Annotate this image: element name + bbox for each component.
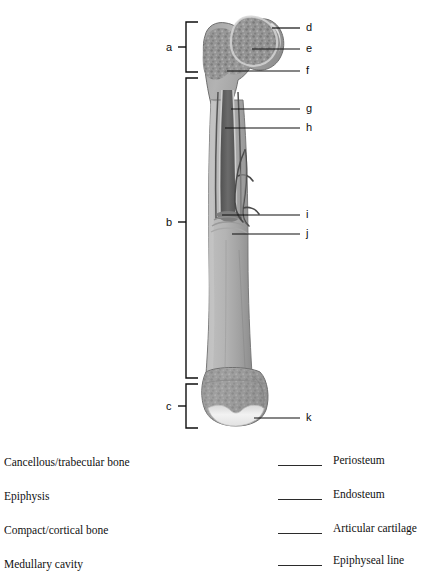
region-brackets [178, 22, 198, 428]
wordbank-term-epiphyseal-line: Epiphyseal line [333, 553, 404, 567]
wordbank-row-left-1[interactable]: Cancellous/trabecular bone [4, 454, 254, 470]
callout-label-j: j [306, 228, 308, 239]
wordbank-row-right-3[interactable]: Articular cartilage [278, 520, 432, 536]
wordbank-row-left-4[interactable]: Medullary cavity [4, 556, 254, 572]
answer-blank-epiphyseal-line[interactable] [278, 554, 322, 566]
answer-blank-endosteum[interactable] [278, 488, 322, 500]
wordbank-term-epiphysis: Epiphysis [4, 489, 49, 503]
wordbank-row-right-1[interactable]: Periosteum [278, 452, 432, 468]
wordbank-term-articular-cartilage: Articular cartilage [333, 521, 417, 535]
wordbank-row-left-3[interactable]: Compact/cortical bone [4, 522, 254, 538]
wordbank-row-right-2[interactable]: Endosteum [278, 486, 432, 502]
femur-body [198, 10, 284, 430]
wordbank-term-compact-cortical-bone: Compact/cortical bone [4, 523, 108, 537]
callout-label-f: f [306, 65, 309, 76]
word-bank: Cancellous/trabecular bone Epiphysis Com… [0, 440, 432, 567]
callout-label-i: i [306, 209, 308, 220]
answer-blank-periosteum[interactable] [278, 454, 322, 466]
bracket-label-a: a [166, 42, 172, 53]
callout-label-g: g [306, 103, 312, 114]
bone-diagram: a b c d e f g h i j k [0, 0, 432, 440]
bracket-a [186, 22, 198, 72]
wordbank-term-cancellous-trabecular-bone: Cancellous/trabecular bone [4, 455, 130, 469]
callout-label-h: h [306, 122, 312, 133]
bone-illustration-svg [0, 0, 432, 440]
answer-blank-articular-cartilage[interactable] [278, 522, 322, 534]
bracket-label-b: b [166, 217, 172, 228]
wordbank-row-left-2[interactable]: Epiphysis [4, 488, 254, 504]
wordbank-term-periosteum: Periosteum [333, 453, 385, 467]
callout-label-k: k [306, 412, 312, 423]
callout-label-d: d [306, 22, 312, 33]
bracket-label-c: c [166, 401, 172, 412]
callout-label-e: e [306, 43, 312, 54]
wordbank-row-right-4[interactable]: Epiphyseal line [278, 552, 432, 568]
wordbank-term-endosteum: Endosteum [333, 487, 385, 501]
wordbank-term-medullary-cavity: Medullary cavity [4, 557, 83, 571]
bracket-c [186, 384, 198, 428]
bracket-b [186, 78, 198, 378]
